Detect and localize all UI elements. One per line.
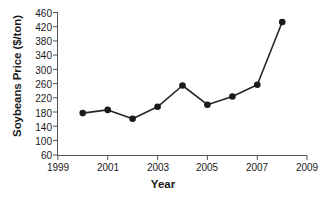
- data-point-markers: [79, 19, 285, 122]
- data-point-2008: [279, 19, 286, 26]
- data-point-2001: [104, 107, 111, 114]
- data-point-2003: [154, 104, 161, 111]
- chart-page: Soybeans Price ($/ton) Year 460 420 380 …: [0, 0, 326, 199]
- data-point-2005: [204, 101, 211, 108]
- data-point-2006: [229, 93, 236, 100]
- data-point-2007: [254, 82, 261, 89]
- y-axis-ticks: [53, 13, 58, 156]
- data-point-2004: [179, 82, 186, 89]
- data-point-2002: [129, 116, 136, 123]
- soybeans-price-line-chart: Soybeans Price ($/ton) Year 460 420 380 …: [0, 0, 326, 199]
- plot-canvas: [0, 0, 326, 199]
- data-point-2000: [79, 110, 86, 117]
- data-line-series: [83, 22, 283, 119]
- x-axis-ticks: [58, 156, 307, 161]
